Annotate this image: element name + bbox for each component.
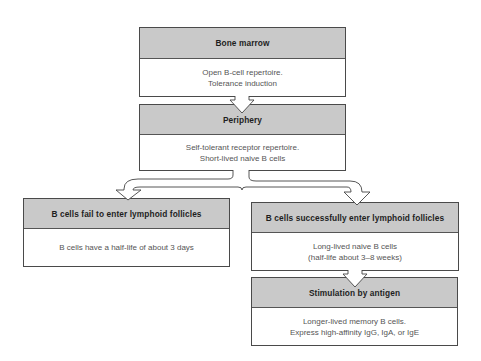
arrow-down-icon — [230, 96, 254, 113]
arrow-down-icon — [343, 270, 367, 287]
split-arrow-icon — [116, 170, 370, 205]
arrows-layer — [0, 0, 481, 361]
